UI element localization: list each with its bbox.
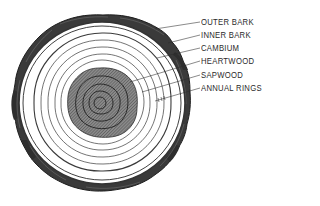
label-sapwood: SAPWOOD: [201, 70, 243, 80]
leader-outer-bark: [155, 22, 200, 29]
label-annual-rings: ANNUAL RINGS: [201, 83, 262, 93]
leader-inner-bark: [168, 35, 200, 43]
label-inner-bark: INNER BARK: [201, 30, 251, 40]
heartwood: [68, 68, 138, 137]
label-outer-bark: OUTER BARK: [201, 17, 254, 27]
label-cambium: CAMBIUM: [201, 43, 239, 53]
label-heartwood: HEARTWOOD: [201, 56, 254, 66]
